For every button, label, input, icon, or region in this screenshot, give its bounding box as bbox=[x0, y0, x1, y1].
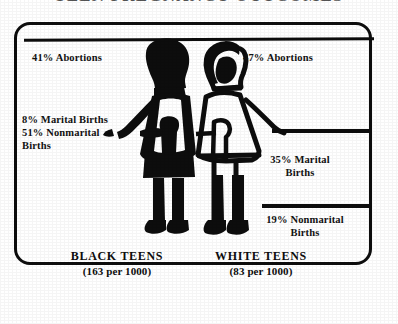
label-white-abortions: 47% Abortions bbox=[243, 51, 313, 64]
caption-white-teens: WHITE TEENS (83 per 1000) bbox=[196, 249, 326, 278]
figure-title-clipped: TEEN PREGNANCY OUTCOMES bbox=[0, 0, 398, 2]
white-marital-marker-rule bbox=[272, 129, 372, 133]
label-white-nonmarital-births: 19% Nonmarital Births bbox=[250, 213, 360, 239]
figure-title: TEEN PREGNANCY OUTCOMES bbox=[0, 0, 398, 2]
caption-white-teens-name: WHITE TEENS bbox=[196, 249, 326, 264]
label-black-nonmarital-births: 51% Nonmarital Births bbox=[22, 126, 100, 152]
caption-black-teens-rate: (163 per 1000) bbox=[52, 264, 182, 278]
label-black-abortions: 41% Abortions bbox=[32, 51, 102, 64]
label-white-marital-births: 35% Marital Births bbox=[252, 153, 348, 179]
white-nonmarital-marker-rule bbox=[262, 204, 372, 208]
caption-black-teens: BLACK TEENS (163 per 1000) bbox=[52, 249, 182, 278]
infographic-canvas: TEEN PREGNANCY OUTCOMES bbox=[0, 0, 398, 324]
label-black-marital-births: 8% Marital Births bbox=[22, 113, 108, 126]
caption-black-teens-name: BLACK TEENS bbox=[52, 249, 182, 264]
caption-white-teens-rate: (83 per 1000) bbox=[196, 264, 326, 278]
